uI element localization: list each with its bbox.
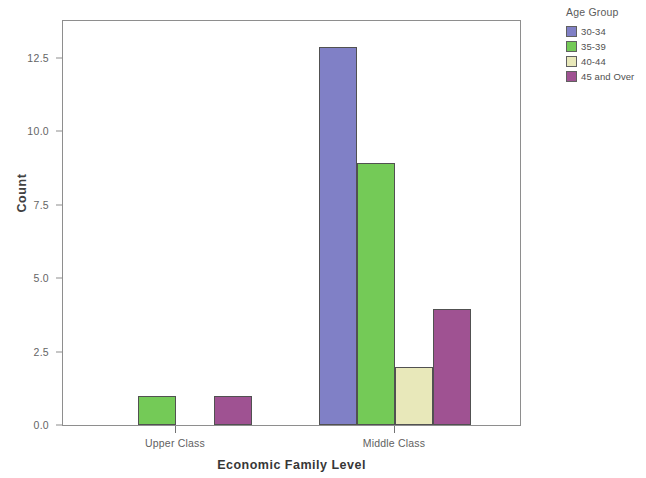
y-tick-label: 5.0 <box>34 272 50 284</box>
legend-swatch-icon <box>566 71 577 82</box>
legend-item[interactable]: 45 and Over <box>566 69 646 83</box>
legend-item[interactable]: 30-34 <box>566 24 646 38</box>
x-tick-label-upper-class: Upper Class <box>145 437 205 449</box>
bar-chart-figure: 12.5 10.0 7.5 5.0 2.5 0.0 Count Upper Cl… <box>0 0 646 478</box>
y-axis: 12.5 10.0 7.5 5.0 2.5 0.0 <box>0 0 62 446</box>
y-tick-label: 0.0 <box>34 419 50 431</box>
plot-area <box>63 21 520 425</box>
legend-item[interactable]: 40-44 <box>566 54 646 68</box>
y-tick-label: 10.0 <box>27 125 49 137</box>
legend-item-label: 40-44 <box>581 56 606 67</box>
bar <box>138 396 176 425</box>
legend-items: 30-3435-3940-4445 and Over <box>566 24 646 83</box>
y-tick-label: 12.5 <box>27 52 49 64</box>
legend-item[interactable]: 35-39 <box>566 39 646 53</box>
legend-swatch-icon <box>566 41 577 52</box>
legend-title: Age Group <box>566 6 646 18</box>
y-axis-title: Count <box>15 143 29 243</box>
y-tick-label: 2.5 <box>34 346 50 358</box>
bar <box>433 309 471 425</box>
x-tick-mark <box>175 426 176 433</box>
legend-item-label: 45 and Over <box>581 71 634 82</box>
legend-swatch-icon <box>566 56 577 67</box>
bar <box>357 163 395 425</box>
plot-frame <box>62 20 521 426</box>
legend-item-label: 30-34 <box>581 26 606 37</box>
legend-swatch-icon <box>566 26 577 37</box>
bar <box>319 47 357 425</box>
y-tick-label: 7.5 <box>34 199 50 211</box>
x-tick-mark <box>394 426 395 433</box>
legend: Age Group 30-3435-3940-4445 and Over <box>566 6 646 84</box>
x-tick-label-middle-class: Middle Class <box>363 437 426 449</box>
bar <box>395 367 433 425</box>
bar <box>214 396 252 425</box>
x-axis-title: Economic Family Level <box>62 458 521 472</box>
legend-item-label: 35-39 <box>581 41 606 52</box>
